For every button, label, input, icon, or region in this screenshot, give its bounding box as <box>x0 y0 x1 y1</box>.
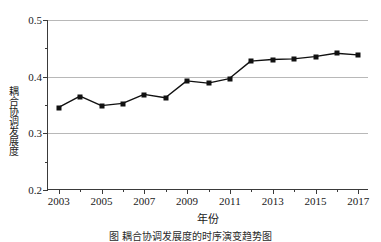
figure-container: 耦合协调发展度 0.20.30.40.5 2003200520072009201… <box>0 0 381 242</box>
x-axis-tick <box>59 189 60 194</box>
x-axis-minor-tick <box>80 189 81 192</box>
figure-caption: 图 耦合协调发展度的时序演变趋势图 <box>0 231 381 242</box>
data-point <box>249 59 254 64</box>
y-axis-tick-label: 0.4 <box>28 71 42 82</box>
data-point <box>163 96 168 101</box>
data-point <box>99 104 104 109</box>
x-axis-tick <box>187 189 188 194</box>
x-axis-minor-tick <box>166 189 167 192</box>
data-point <box>185 79 190 84</box>
plot-area: 0.20.30.40.5 200320052007200920112013201… <box>47 20 368 190</box>
x-axis-tick-label: 2003 <box>48 196 70 207</box>
x-axis-title: 年份 <box>47 213 368 225</box>
data-point <box>334 51 339 56</box>
x-axis-tick-label: 2013 <box>262 196 284 207</box>
data-point <box>142 92 147 97</box>
data-point <box>206 81 211 86</box>
x-axis-minor-tick <box>337 189 338 192</box>
x-axis-minor-tick <box>251 189 252 192</box>
data-point <box>227 76 232 81</box>
x-axis-tick-label: 2017 <box>347 196 369 207</box>
data-point <box>292 57 297 62</box>
x-axis-tick-label: 2005 <box>91 196 113 207</box>
x-axis-tick-label: 2011 <box>219 196 241 207</box>
x-axis-tick <box>358 189 359 194</box>
x-axis-minor-tick <box>123 189 124 192</box>
data-point <box>56 105 61 110</box>
x-axis-minor-tick <box>209 189 210 192</box>
y-axis-title: 耦合协调发展度 <box>4 86 18 156</box>
y-axis-tick-label: 0.2 <box>28 185 42 196</box>
x-axis-minor-tick <box>294 189 295 192</box>
data-point <box>78 94 83 99</box>
y-axis-tick-label: 0.3 <box>28 128 42 139</box>
x-axis-tick-label: 2015 <box>305 196 327 207</box>
x-axis-tick-label: 2009 <box>176 196 198 207</box>
x-axis-tick <box>273 189 274 194</box>
x-axis-tick <box>230 189 231 194</box>
data-point <box>313 54 318 59</box>
data-point <box>120 101 125 106</box>
x-axis-tick <box>316 189 317 194</box>
y-axis-tick <box>43 190 48 191</box>
x-axis-tick <box>102 189 103 194</box>
data-point <box>356 53 361 58</box>
data-point <box>270 57 275 62</box>
series-line <box>48 20 368 189</box>
y-axis-tick-label: 0.5 <box>28 15 42 26</box>
x-axis-tick-label: 2007 <box>133 196 155 207</box>
x-axis-tick <box>144 189 145 194</box>
